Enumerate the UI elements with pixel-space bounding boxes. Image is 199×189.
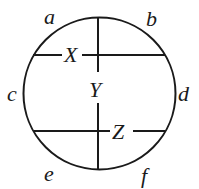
arc-label-a: a <box>44 4 55 29</box>
label-z: Z <box>112 119 125 144</box>
label-y: Y <box>89 77 104 102</box>
arc-label-d: d <box>178 81 190 106</box>
arc-label-f: f <box>141 163 150 188</box>
label-x: X <box>63 42 79 67</box>
circle-diagram: X Y Z a b c d e f <box>0 0 199 189</box>
arc-label-c: c <box>7 81 17 106</box>
arc-label-e: e <box>44 161 54 186</box>
arc-label-b: b <box>146 6 157 31</box>
